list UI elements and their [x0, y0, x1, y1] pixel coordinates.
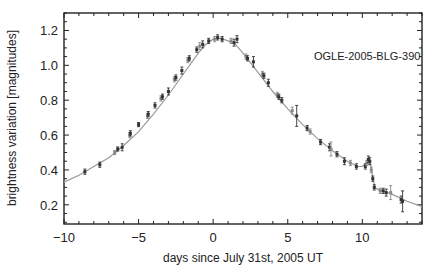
- x-tick-labels: −10−50510: [53, 230, 370, 245]
- data-point: [137, 123, 140, 127]
- y-tick-label: 0.4: [40, 163, 58, 178]
- y-tick-label: 0.2: [40, 198, 58, 213]
- data-point: [113, 150, 116, 154]
- y-tick-label: 1.0: [40, 58, 58, 73]
- light-curve-chart: −10−50510 0.20.40.60.81.01.2 OGLE-2005-B…: [0, 0, 437, 274]
- data-point: [116, 147, 119, 151]
- x-tick-label: 5: [284, 230, 291, 245]
- x-tick-label: 0: [210, 230, 217, 245]
- x-tick-label: −10: [53, 230, 75, 245]
- y-tick-label: 0.8: [40, 93, 58, 108]
- x-axis-label: days since July 31st, 2005 UT: [163, 251, 324, 265]
- x-tick-label: −5: [131, 230, 146, 245]
- y-tick-label: 0.6: [40, 128, 58, 143]
- plot-frame: [64, 13, 422, 224]
- y-tick-label: 1.2: [40, 23, 58, 38]
- event-name-annotation: OGLE-2005-BLG-390: [314, 50, 420, 62]
- x-tick-label: 10: [355, 230, 369, 245]
- y-axis-label: brightness variation [magnitudes]: [5, 30, 19, 206]
- y-tick-labels: 0.20.40.60.81.01.2: [40, 23, 58, 212]
